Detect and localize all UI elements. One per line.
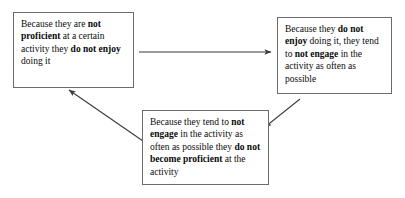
arrow-box2-to-box3 [265, 99, 300, 127]
arrow-box3-to-box1 [69, 90, 143, 141]
box-not-proficient-not-enjoy: Because they are not proficient at a cer… [13, 12, 134, 88]
box-not-engage-not-proficient: Because they tend to not engage in the a… [142, 110, 269, 185]
box-1-text: Because they are not proficient at a cer… [14, 13, 133, 72]
box-2-text: Because they do not enjoy doing it, they… [278, 18, 391, 89]
box-not-enjoy-not-engage: Because they do not enjoy doing it, they… [277, 17, 392, 94]
box-3-text: Because they tend to not engage in the a… [143, 111, 268, 182]
diagram-canvas: Because they are not proficient at a cer… [0, 0, 405, 198]
